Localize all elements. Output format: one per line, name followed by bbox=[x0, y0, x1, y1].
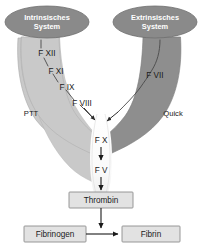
test-label-quick: Quick bbox=[163, 109, 183, 118]
factor-label-f8: F VIII bbox=[72, 99, 92, 108]
thrombin-label: Thrombin bbox=[84, 196, 119, 205]
factor-label-f5: F V bbox=[95, 166, 108, 175]
factor-label-f10: F X bbox=[95, 136, 108, 145]
extrinsic-system-label-line2: System bbox=[142, 22, 169, 31]
fibrin-node: Fibrin bbox=[122, 226, 180, 242]
intrinsic-system-label-line2: System bbox=[34, 22, 61, 31]
intrinsic-system-node: Intrinsisches System bbox=[5, 6, 89, 38]
test-label-ptt: PTT bbox=[24, 109, 39, 118]
intrinsic-system-label-line1: Intrinsisches bbox=[24, 13, 70, 22]
fibrinogen-label: Fibrinogen bbox=[36, 230, 75, 239]
fibrinogen-node: Fibrinogen bbox=[24, 226, 86, 242]
factor-label-f12: F XII bbox=[38, 49, 55, 58]
factor-label-f7: F VII bbox=[146, 71, 163, 80]
extrinsic-system-node: Extrinsisches System bbox=[113, 6, 197, 38]
coagulation-cascade-diagram: Intrinsisches System Extrinsisches Syste… bbox=[0, 0, 202, 251]
diagram-canvas: Intrinsisches System Extrinsisches Syste… bbox=[0, 0, 202, 251]
thrombin-node: Thrombin bbox=[69, 192, 133, 208]
fibrin-label: Fibrin bbox=[141, 230, 162, 239]
factor-label-f9: F IX bbox=[59, 83, 75, 92]
factor-label-f11: F XI bbox=[48, 67, 63, 76]
extrinsic-system-label-line1: Extrinsisches bbox=[131, 13, 179, 22]
